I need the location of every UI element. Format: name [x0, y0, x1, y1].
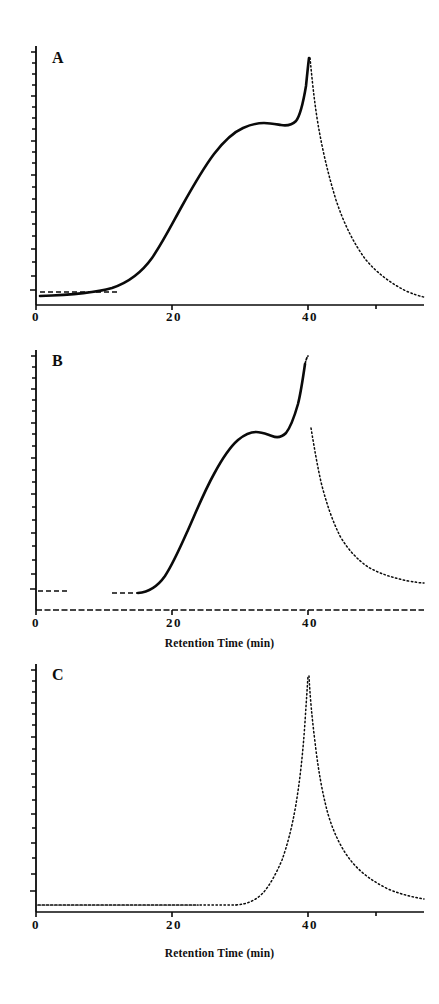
panel-c-xtick-40: 40 [302, 918, 318, 931]
panel-c: C [0, 662, 439, 1004]
panel-c-trace-ascending [236, 676, 308, 905]
panel-b-x-axis-label: Retention Time (min) [0, 637, 439, 649]
panel-b-plot-layer [0, 340, 439, 662]
panel-a-xtick-0: 0 [32, 310, 40, 323]
panel-c-x-axis-label: Retention Time (min) [0, 947, 439, 959]
panel-b-trace-descending [311, 428, 424, 583]
panel-a-xtick-20: 20 [166, 310, 182, 323]
panel-a-trace-ascending [40, 58, 309, 296]
panel-c-xtick-20: 20 [166, 918, 182, 931]
chromatogram-figure: A [0, 0, 439, 1004]
panel-b-xtick-0: 0 [32, 616, 40, 629]
panel-b-xtick-20: 20 [166, 616, 182, 629]
panel-c-trace-descending [309, 676, 424, 899]
panel-b: B [0, 340, 439, 662]
panel-c-xtick-0: 0 [32, 918, 40, 931]
panel-a-plot [0, 0, 439, 340]
panel-b-xtick-40: 40 [302, 616, 318, 629]
panel-a: A [0, 0, 439, 340]
panel-a-xtick-40: 40 [302, 310, 318, 323]
panel-b-trace-peak-top [305, 356, 308, 364]
panel-a-trace-descending [310, 58, 424, 297]
panel-b-trace-ascending [138, 364, 305, 593]
